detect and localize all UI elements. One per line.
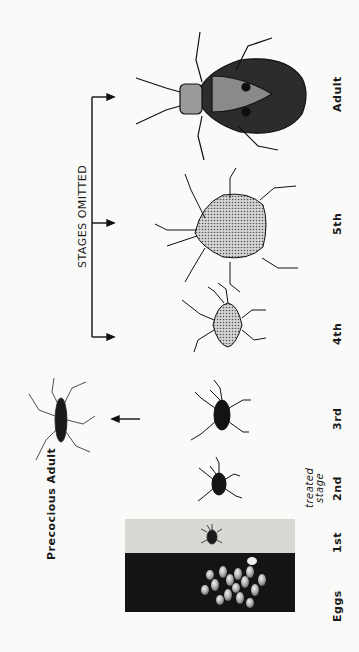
third-instar <box>191 380 251 440</box>
second-instar <box>198 457 242 501</box>
label-first: 1st <box>331 532 344 553</box>
label-third: 3rd <box>331 408 344 430</box>
fourth-instar <box>182 283 266 352</box>
eggs-cluster <box>201 557 266 608</box>
label-fourth: 4th <box>331 323 344 345</box>
label-eggs: Eggs <box>331 590 344 622</box>
label-treated-stage: treated stage <box>305 468 325 508</box>
label-precocious-adult: Precocious Adult <box>45 448 58 560</box>
label-second: 2nd <box>331 476 344 501</box>
precocious-adult <box>29 378 95 460</box>
adult <box>136 32 306 160</box>
arrow-to-precocious <box>112 416 140 422</box>
label-stages-omitted: STAGES OMITTED <box>76 165 89 268</box>
stage-line: stage <box>314 473 325 503</box>
label-adult: Adult <box>331 76 344 112</box>
stages-omitted-bracket <box>92 94 114 340</box>
label-fifth: 5th <box>331 213 344 235</box>
fifth-instar <box>155 168 298 292</box>
insect-development-figure: Eggs 1st 2nd treated stage 3rd 4th 5th A… <box>0 0 359 652</box>
first-instar <box>201 524 222 544</box>
